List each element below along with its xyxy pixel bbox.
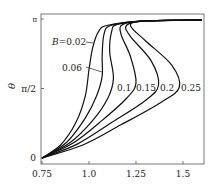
x-tick-label: 0.75 — [32, 169, 52, 179]
y-tick-label: π — [32, 16, 37, 24]
label-b02: 0.2 — [160, 83, 174, 93]
label-b006: 0.06 — [62, 63, 82, 73]
label-b01: 0.1 — [117, 83, 131, 93]
x-tick-label: 1.0 — [82, 169, 97, 179]
chart: 0.751.01.251.50π/2π θ B=0.02 0.06 0.1 0.… — [0, 0, 217, 191]
y-axis-label: θ — [6, 83, 17, 89]
y-tick-label: π/2 — [21, 84, 36, 94]
y-tick-label: 0 — [30, 153, 36, 163]
leader-b002 — [86, 42, 93, 43]
x-tick-label: 1.5 — [176, 169, 191, 179]
label-b015: 0.15 — [136, 83, 156, 93]
x-tick-label: 1.25 — [126, 169, 146, 179]
label-b002: B=0.02 — [51, 37, 86, 47]
label-b025: 0.25 — [181, 83, 201, 93]
